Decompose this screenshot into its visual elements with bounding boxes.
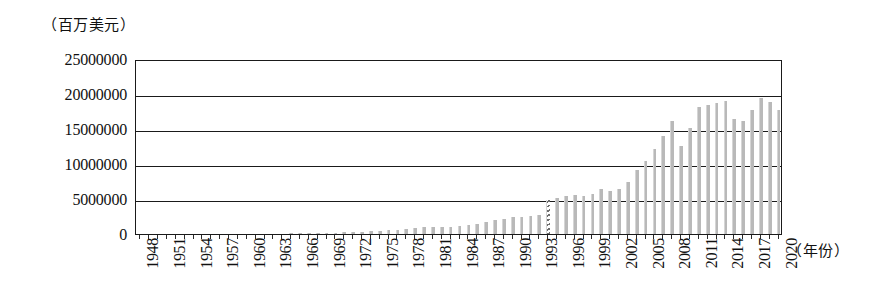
bar	[351, 232, 355, 234]
bar	[564, 196, 568, 234]
x-tick-label: 1966	[305, 238, 321, 269]
bar	[635, 170, 639, 234]
bar	[626, 182, 630, 235]
bar	[741, 121, 745, 234]
bar	[378, 231, 382, 234]
x-tick-label: 1999	[597, 238, 613, 269]
x-tick-label: 2017	[757, 238, 773, 269]
bar	[502, 219, 506, 234]
y-tick-label: 5000000	[72, 192, 127, 208]
bar	[289, 233, 293, 234]
bar	[325, 233, 329, 234]
x-tick-label: 1954	[199, 238, 215, 269]
bar	[537, 215, 541, 234]
y-tick-label: 25000000	[65, 52, 127, 68]
bar	[529, 216, 533, 234]
x-tick-label: 1951	[172, 238, 188, 269]
bar	[670, 121, 674, 234]
x-tick-label: 2005	[651, 238, 667, 269]
bar	[608, 191, 612, 234]
bar	[484, 222, 488, 234]
bar	[298, 233, 302, 234]
bar	[493, 220, 497, 234]
bar	[475, 224, 479, 234]
bar	[387, 230, 391, 234]
bar	[688, 128, 692, 234]
bar	[520, 217, 524, 234]
y-tick-label: 20000000	[65, 87, 127, 103]
bar	[644, 161, 648, 235]
bar	[360, 232, 364, 234]
bar-chart: （百万美元） 050000001000000015000000200000002…	[0, 0, 896, 301]
x-tick-label: 2008	[677, 238, 693, 269]
bar	[706, 105, 710, 234]
x-tick-label: 1981	[438, 238, 454, 269]
bar	[511, 217, 515, 234]
bar	[715, 103, 719, 234]
bar	[467, 225, 471, 234]
x-tick-label: 1993	[544, 238, 560, 269]
bar	[307, 233, 311, 234]
x-tick-label: 2014	[730, 238, 746, 269]
x-tick-label: 1969	[332, 238, 348, 269]
bar	[422, 227, 426, 234]
x-tick-label: 1948	[145, 238, 161, 269]
bar	[750, 110, 754, 234]
bar	[697, 107, 701, 234]
bar	[546, 200, 550, 234]
y-tick-label: 15000000	[65, 122, 127, 138]
x-tick-label: 1963	[278, 238, 294, 269]
x-tick-label: 1996	[571, 238, 587, 269]
bar	[449, 227, 453, 234]
x-axis-tick-labels: 1948195119541957196019631966196919721975…	[135, 238, 782, 301]
bar	[369, 231, 373, 234]
x-tick-label: 1960	[252, 238, 268, 269]
bar	[404, 229, 408, 234]
bar	[316, 233, 320, 234]
bar	[413, 228, 417, 234]
plot-area	[135, 60, 782, 235]
bar	[431, 227, 435, 234]
bar	[768, 102, 772, 234]
bar	[573, 195, 577, 234]
bar	[342, 232, 346, 234]
x-tick-label: 1987	[491, 238, 507, 269]
bar	[555, 198, 559, 234]
bar	[759, 98, 763, 234]
bar	[661, 136, 665, 234]
x-tick-label: 1972	[358, 238, 374, 269]
bar	[599, 189, 603, 234]
x-tick-label: 1990	[518, 238, 534, 269]
y-axis-tick-labels: 0500000010000000150000002000000025000000	[0, 0, 131, 301]
bar-series	[136, 61, 781, 234]
bar	[582, 196, 586, 235]
bar	[396, 230, 400, 234]
x-axis-unit-label: （年份）	[787, 244, 849, 259]
bar	[653, 149, 657, 234]
bar	[440, 227, 444, 234]
bar	[591, 194, 595, 234]
bar	[458, 226, 462, 234]
x-tick-label: 2011	[704, 238, 720, 268]
x-tick-label: 1978	[411, 238, 427, 269]
bar	[679, 146, 683, 234]
bar	[777, 110, 781, 234]
x-tick-label: 1984	[465, 238, 481, 269]
x-tick-label: 1975	[385, 238, 401, 269]
x-tick-label: 1957	[225, 238, 241, 269]
bar	[334, 233, 338, 234]
x-tick-label: 2002	[624, 238, 640, 269]
bar	[732, 119, 736, 235]
y-tick-label: 0	[119, 227, 127, 243]
y-tick-label: 10000000	[65, 157, 127, 173]
bar	[724, 101, 728, 234]
bar	[617, 189, 621, 235]
